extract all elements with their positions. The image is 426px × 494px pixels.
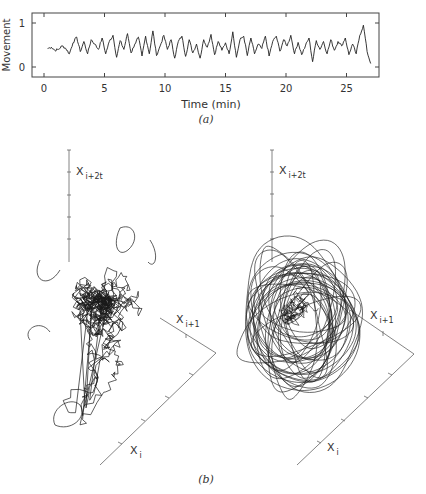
figure: 1 0 Movement 0510152025 Time (min) (a) X… (0, 0, 426, 494)
xtick-label: 15 (219, 83, 232, 94)
x-axis-label: Xi (327, 441, 339, 457)
ytick-1: 1 (19, 18, 25, 29)
y-axis (100, 318, 216, 465)
xtick-label: 5 (101, 83, 107, 94)
xtick-label: 10 (159, 83, 172, 94)
phase-trajectory-smooth (237, 236, 363, 399)
z-axis-label: Xi+2t (76, 165, 103, 181)
y-axis-label: Movement (1, 18, 12, 71)
xtick-label: 20 (280, 83, 293, 94)
xtick-label: 0 (41, 83, 47, 94)
x-axis-label: Time (min) (180, 98, 241, 111)
y-axis-label: Xi+1 (176, 313, 200, 329)
y-axis-label: Xi+1 (370, 309, 394, 325)
xtick-label: 25 (340, 83, 353, 94)
x-axis-label: Xi (130, 444, 142, 460)
panel-a: 1 0 Movement 0510152025 Time (min) (a) (1, 13, 379, 126)
caption-a: (a) (198, 113, 213, 126)
panel-b-left: Xi+2t Xi+1 Xi (28, 150, 216, 465)
caption-b: (b) (198, 473, 214, 486)
movement-series (48, 25, 371, 63)
phase-trajectory-noisy (28, 227, 156, 427)
ytick-0: 0 (19, 62, 25, 73)
z-axis-label: Xi+2t (279, 164, 306, 180)
panel-b-right: Xi+2t Xi+1 Xi (237, 150, 414, 465)
